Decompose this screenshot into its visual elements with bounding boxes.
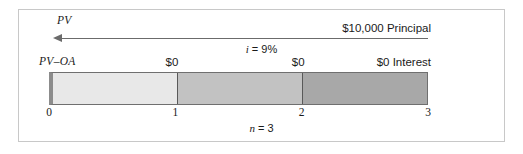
tvm-timeline-figure: PV $10,000 Principal i= 9% PV–OA $0 $0 $… <box>0 0 523 154</box>
pv-oa-label: PV–OA <box>39 55 76 67</box>
discount-arrow-line <box>60 38 428 39</box>
periods-label: n= 3 <box>0 122 523 134</box>
tick-label-0: 0 <box>46 106 52 118</box>
principal-label: $10,000 Principal <box>342 22 431 34</box>
pv-label: PV <box>57 14 72 26</box>
tick-label-3: 3 <box>425 106 431 118</box>
interest-rate-value: = 9% <box>252 43 277 55</box>
timeline-bar <box>49 72 428 105</box>
cash-flow-label-period-3: $0 Interest <box>377 56 431 68</box>
cash-flow-label-period-2: $0 <box>292 56 305 68</box>
periods-value: = 3 <box>258 122 274 134</box>
tick-label-2: 2 <box>299 106 305 118</box>
tick-label-1: 1 <box>172 106 178 118</box>
timeline-segment-3 <box>302 73 427 104</box>
cash-flow-label-period-1: $0 <box>166 56 179 68</box>
interest-rate-label: i= 9% <box>0 43 523 55</box>
discount-arrow-head-icon <box>53 34 62 42</box>
timeline-segment-1 <box>53 73 177 104</box>
interest-rate-symbol: i <box>246 43 249 55</box>
timeline-segment-2 <box>177 73 302 104</box>
periods-symbol: n <box>249 122 255 134</box>
